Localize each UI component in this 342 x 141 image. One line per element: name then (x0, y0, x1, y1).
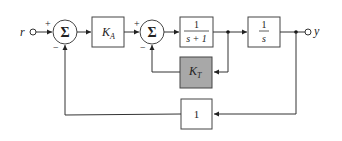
integrator-denominator: s (262, 33, 266, 44)
unity-label: 1 (194, 108, 200, 120)
integrator-numerator: 1 (262, 19, 267, 30)
inner-feedback-line-out (152, 45, 180, 72)
outer-feedback-line-out (65, 45, 181, 115)
sum2-symbol: Σ (147, 25, 156, 40)
sum1-minus-sign: − (53, 42, 59, 53)
plant-denominator: s + 1 (186, 33, 207, 44)
output-label: y (313, 24, 320, 38)
inner-feedback-line-in (214, 32, 228, 72)
input-label: r (20, 25, 25, 39)
block-diagram: r Σ + − KA Σ + − 1 s + 1 1 s y KT 1 (0, 0, 342, 141)
sum2-plus-sign: + (134, 18, 140, 29)
plant-numerator: 1 (194, 19, 199, 30)
output-terminal (305, 29, 311, 35)
input-terminal (30, 29, 36, 35)
sum1-symbol: Σ (60, 25, 69, 40)
sum2-minus-sign: − (140, 42, 146, 53)
sum1-plus-sign: + (45, 18, 51, 29)
